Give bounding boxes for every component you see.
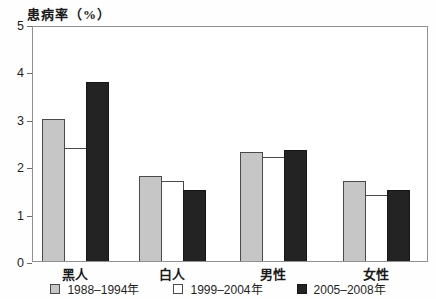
bar-group-4 — [343, 181, 410, 261]
y-tick-mark — [27, 73, 32, 74]
bar-series3-cat1 — [86, 82, 109, 261]
bar-series1-cat3 — [240, 152, 263, 261]
bar-series3-cat3 — [284, 150, 307, 261]
y-tick-label: 3 — [0, 113, 24, 129]
y-tick-label: 2 — [0, 160, 24, 176]
y-tick-label: 4 — [0, 65, 24, 81]
y-tick-mark — [27, 216, 32, 217]
y-tick-label: 1 — [0, 208, 24, 224]
legend-swatch-icon — [173, 284, 183, 294]
y-tick-mark — [27, 121, 32, 122]
y-tick-mark — [27, 263, 32, 264]
legend-swatch-icon — [297, 284, 307, 294]
bar-group-3 — [240, 150, 307, 261]
legend-item-2: 1999–2004年 — [173, 280, 262, 297]
legend-item-3: 2005–2008年 — [297, 280, 386, 297]
bar-chart-figure: 患病率（%） 012345 黑人白人男性女性 1988–1994年1999–20… — [0, 0, 436, 299]
legend-label: 1988–1994年 — [67, 280, 139, 297]
legend-label: 2005–2008年 — [314, 280, 386, 297]
bar-series1-cat1 — [42, 119, 65, 261]
bar-series2-cat1 — [64, 148, 87, 261]
bar-series1-cat4 — [343, 181, 366, 261]
y-tick-mark — [27, 26, 32, 27]
chart-title: 患病率（%） — [27, 4, 111, 23]
bar-series2-cat3 — [262, 157, 285, 261]
bar-series2-cat4 — [365, 195, 388, 261]
bar-series3-cat2 — [183, 190, 206, 261]
y-tick-mark — [27, 168, 32, 169]
legend-label: 1999–2004年 — [190, 280, 262, 297]
legend-item-1: 1988–1994年 — [50, 280, 139, 297]
y-tick-label: 0 — [0, 255, 24, 271]
legend: 1988–1994年1999–2004年2005–2008年 — [0, 280, 436, 297]
plot-area — [32, 26, 428, 262]
bar-group-2 — [139, 176, 206, 261]
bar-series2-cat2 — [161, 181, 184, 261]
y-tick-label: 5 — [0, 18, 24, 34]
legend-swatch-icon — [50, 284, 60, 294]
bar-series1-cat2 — [139, 176, 162, 261]
bar-series3-cat4 — [387, 190, 410, 261]
bar-group-1 — [42, 82, 109, 261]
